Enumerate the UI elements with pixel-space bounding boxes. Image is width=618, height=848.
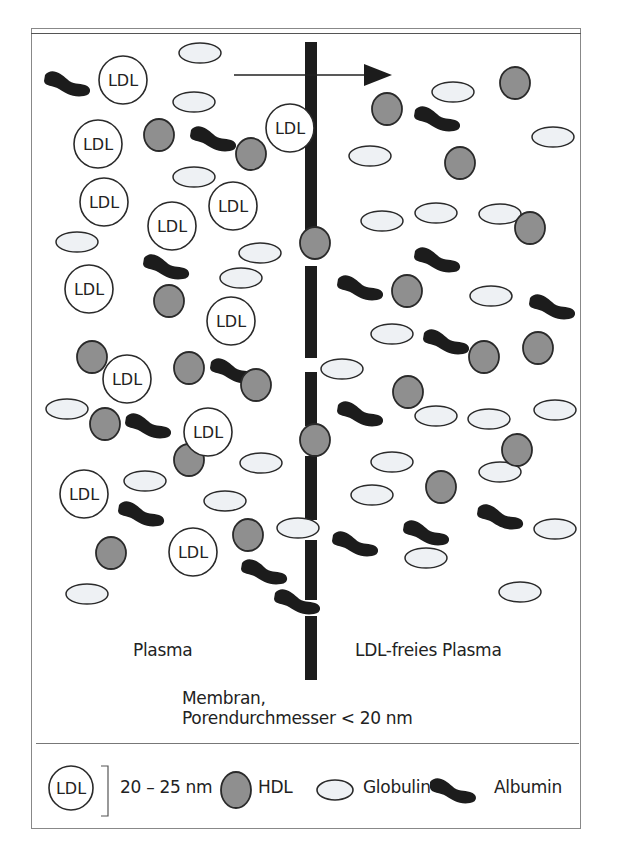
hdl-legend-icon <box>221 772 251 808</box>
hdl-legend-label: HDL <box>258 777 292 797</box>
legend-icons: LDL <box>0 0 618 848</box>
globulin-legend-icon <box>317 780 353 800</box>
svg-text:LDL: LDL <box>56 779 86 798</box>
albumin-legend-label: Albumin <box>494 777 562 797</box>
ldl-legend-icon: LDL <box>49 766 93 810</box>
albumin-legend-icon <box>430 778 476 803</box>
size-range-label: 20 – 25 nm <box>120 777 212 797</box>
globulin-legend-label: Globulin <box>363 777 431 797</box>
size-bracket-icon <box>101 766 108 816</box>
